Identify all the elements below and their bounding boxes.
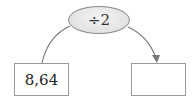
- answer-box[interactable]: [131, 63, 186, 96]
- input-connector-line: [42, 26, 70, 63]
- input-value: 8,64: [25, 71, 58, 89]
- input-box: 8,64: [14, 63, 69, 96]
- arrowhead-icon: [152, 55, 160, 63]
- operation-label: ÷2: [88, 11, 110, 29]
- output-connector-arrow: [128, 27, 156, 58]
- operation-oval: ÷2: [68, 6, 130, 34]
